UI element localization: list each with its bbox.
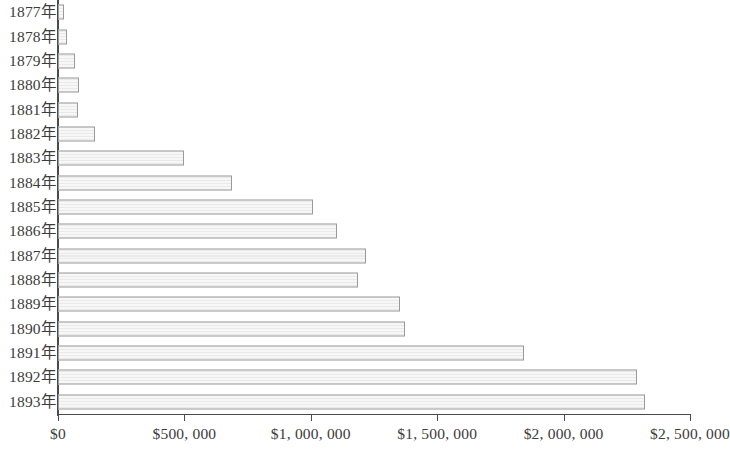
x-axis-tick-label: $500, 000 xyxy=(152,424,216,444)
bar-rows: 1877年1878年1879年1880年1881年1882年1883年1884年… xyxy=(0,0,724,414)
category-label: 1890年 xyxy=(0,320,57,336)
bar xyxy=(58,346,524,361)
x-axis-tick xyxy=(437,414,438,421)
x-axis-tick-label: $1, 000, 000 xyxy=(271,424,351,444)
category-label: 1891年 xyxy=(0,345,57,361)
bar xyxy=(58,126,95,141)
bar xyxy=(58,53,75,68)
x-axis-tick-label: $2, 500, 000 xyxy=(650,424,730,444)
category-label: 1878年 xyxy=(0,28,57,44)
x-axis-ticks xyxy=(0,414,724,422)
category-label: 1881年 xyxy=(0,101,57,117)
bar xyxy=(58,321,405,336)
category-label: 1887年 xyxy=(0,247,57,263)
bar xyxy=(58,175,232,190)
category-label: 1888年 xyxy=(0,272,57,288)
bar-row: 1888年 xyxy=(0,268,724,292)
bar-row: 1893年 xyxy=(0,390,724,414)
bar-row: 1890年 xyxy=(0,317,724,341)
x-axis-tick-label: $0 xyxy=(50,424,66,444)
bar-row: 1879年 xyxy=(0,49,724,73)
bar xyxy=(58,273,358,288)
x-axis-tick-label: $2, 000, 000 xyxy=(524,424,604,444)
bar-row: 1891年 xyxy=(0,341,724,365)
category-label: 1879年 xyxy=(0,53,57,69)
category-label: 1889年 xyxy=(0,296,57,312)
bar xyxy=(58,394,645,409)
bar xyxy=(58,248,366,263)
bar-row: 1885年 xyxy=(0,195,724,219)
category-label: 1877年 xyxy=(0,4,57,20)
bar xyxy=(58,5,64,20)
bar-row: 1878年 xyxy=(0,24,724,48)
bar-row: 1877年 xyxy=(0,0,724,24)
plot-area: 1877年1878年1879年1880年1881年1882年1883年1884年… xyxy=(0,0,724,416)
category-label: 1882年 xyxy=(0,126,57,142)
category-label: 1880年 xyxy=(0,77,57,93)
bar xyxy=(58,370,637,385)
bar xyxy=(58,151,184,166)
bar xyxy=(58,199,313,214)
category-label: 1893年 xyxy=(0,393,57,409)
bar-row: 1880年 xyxy=(0,73,724,97)
bar xyxy=(58,29,67,44)
bar-row: 1884年 xyxy=(0,170,724,194)
x-axis-tick xyxy=(184,414,185,421)
x-axis-tick xyxy=(311,414,312,421)
x-axis-tick-label: $1, 500, 000 xyxy=(397,424,477,444)
bar-row: 1881年 xyxy=(0,97,724,121)
x-axis-tick xyxy=(690,414,691,421)
category-label: 1892年 xyxy=(0,369,57,385)
bar xyxy=(58,224,337,239)
bar-row: 1882年 xyxy=(0,122,724,146)
category-label: 1883年 xyxy=(0,150,57,166)
bar-row: 1883年 xyxy=(0,146,724,170)
x-axis-labels: $0$500, 000$1, 000, 000$1, 500, 000$2, 0… xyxy=(0,424,724,450)
bar-row: 1892年 xyxy=(0,365,724,389)
category-label: 1884年 xyxy=(0,174,57,190)
bar xyxy=(58,102,78,117)
bar xyxy=(58,297,400,312)
bar-row: 1886年 xyxy=(0,219,724,243)
bar-row: 1887年 xyxy=(0,244,724,268)
bar xyxy=(58,78,79,93)
category-label: 1886年 xyxy=(0,223,57,239)
x-axis-tick xyxy=(58,414,59,421)
category-label: 1885年 xyxy=(0,199,57,215)
bar-row: 1889年 xyxy=(0,292,724,316)
x-axis-tick xyxy=(564,414,565,421)
